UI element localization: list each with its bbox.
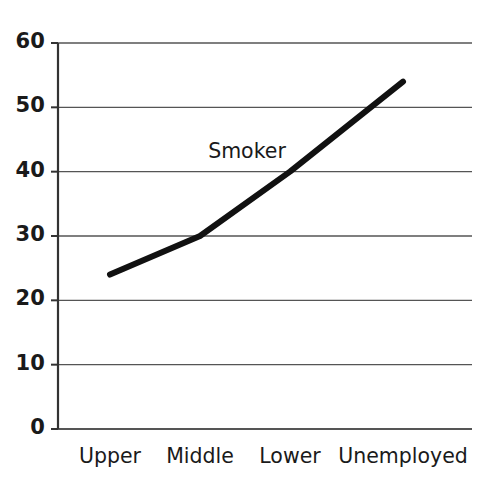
data-line-smoker bbox=[110, 82, 403, 275]
y-tick-label: 20 bbox=[15, 286, 45, 310]
chart-plot-area bbox=[0, 0, 496, 480]
x-tick-label-lower: Lower bbox=[259, 444, 320, 468]
gridlines bbox=[58, 43, 472, 429]
x-tick-label-upper: Upper bbox=[79, 444, 141, 468]
y-tick-label: 0 bbox=[30, 415, 45, 439]
y-tick-label: 40 bbox=[15, 158, 45, 182]
series-annotation-smoker: Smoker bbox=[208, 139, 286, 163]
x-tick-label-unemployed: Unemployed bbox=[338, 444, 468, 468]
x-tick-label-middle: Middle bbox=[166, 444, 234, 468]
line-chart: 0102030405060 UpperMiddleLowerUnemployed… bbox=[0, 0, 496, 480]
y-tick-label: 50 bbox=[15, 93, 45, 117]
y-tick-label: 30 bbox=[15, 222, 45, 246]
y-tick-label: 10 bbox=[15, 351, 45, 375]
y-tick-label: 60 bbox=[15, 29, 45, 53]
